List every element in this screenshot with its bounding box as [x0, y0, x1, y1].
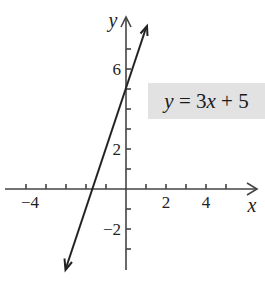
x-axis-label: x: [247, 194, 257, 216]
equation-x: x: [207, 89, 216, 114]
x-axis: [5, 183, 257, 195]
y-tick-label-2: 2: [113, 140, 122, 159]
x-tick-label-2: 2: [162, 193, 171, 212]
line-chart: −4 2 4 6 2 −2 x y: [0, 0, 265, 292]
equation-rest: + 5: [216, 89, 249, 114]
equation-label: y = 3 x + 5: [148, 83, 265, 119]
equation-y: y: [164, 89, 173, 114]
x-tick-label-4: 4: [202, 193, 211, 212]
y-tick-label-neg2: −2: [103, 220, 121, 239]
y-axis-label: y: [107, 9, 118, 32]
x-tick-label-neg4: −4: [21, 193, 40, 212]
y-axis: [121, 17, 131, 270]
equation-eq: = 3: [174, 89, 207, 114]
y-tick-label-6: 6: [113, 60, 122, 79]
